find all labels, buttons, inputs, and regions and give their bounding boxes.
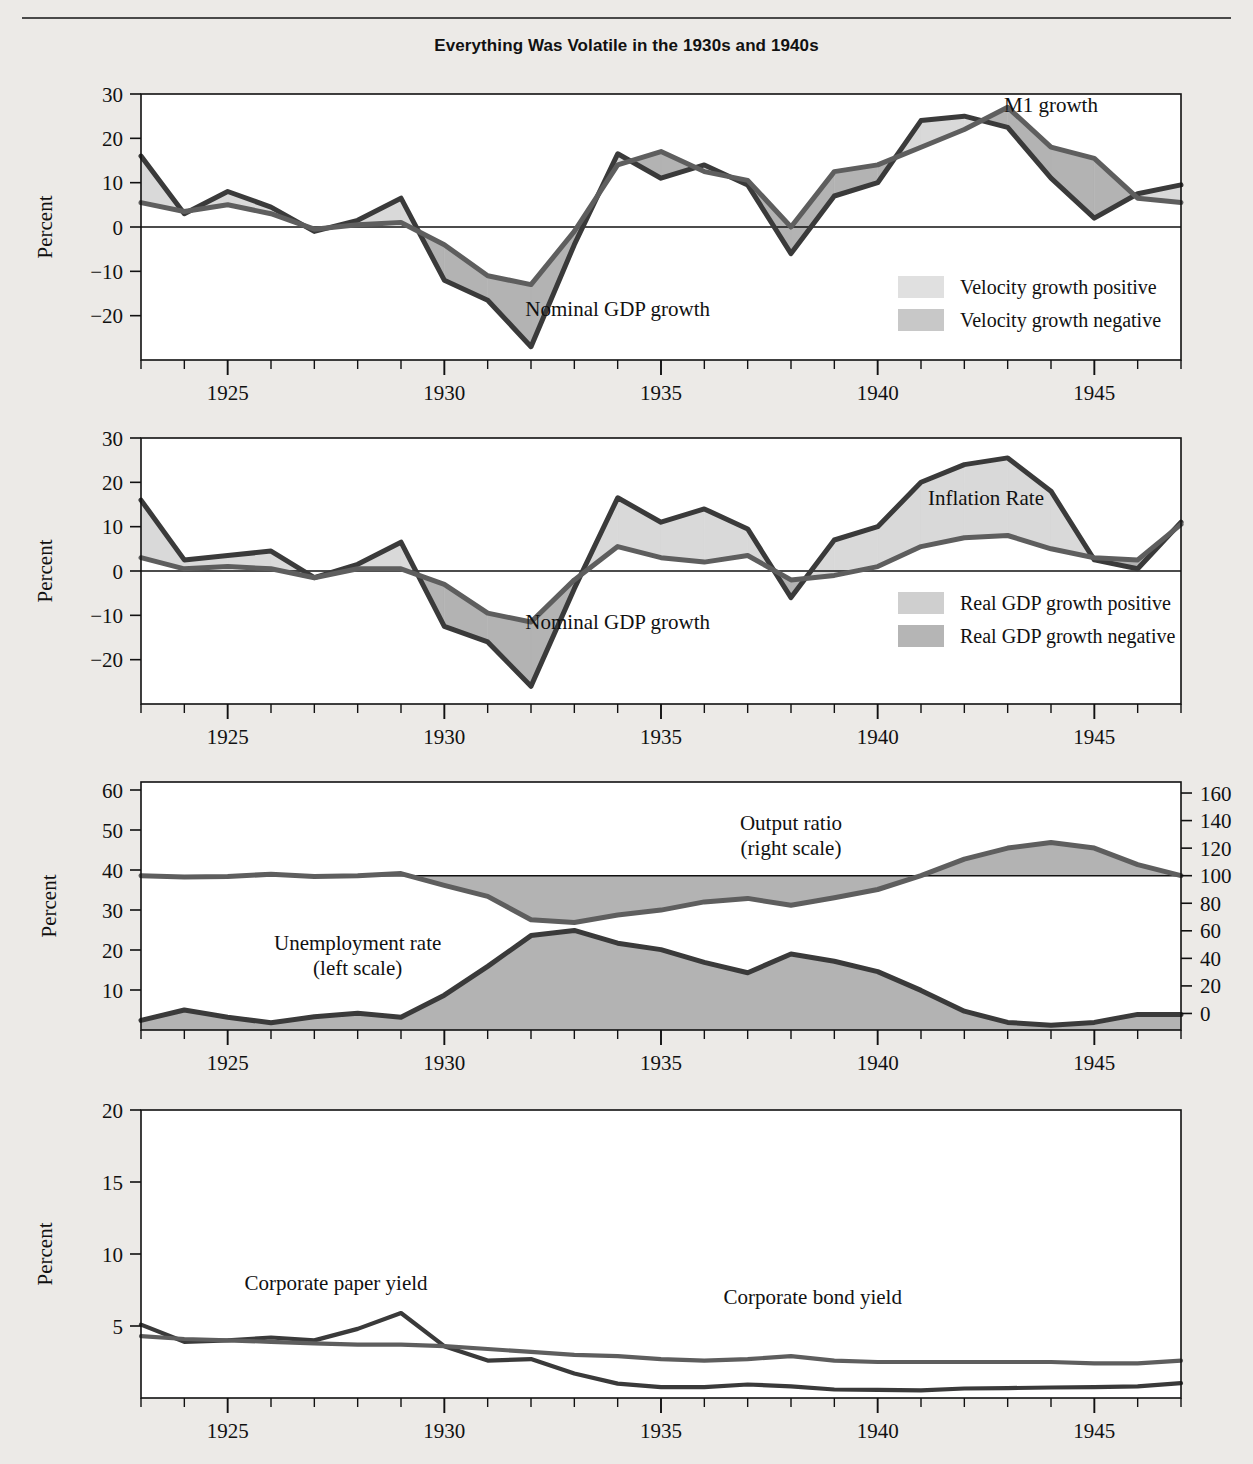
x-axis-tick-label: 1935	[640, 381, 682, 400]
x-axis-tick-label: 1935	[640, 1419, 682, 1443]
y-axis-right-tick-label: 100	[1200, 864, 1232, 888]
y-axis-right-tick-label: 0	[1200, 1002, 1211, 1026]
corporate-paper-yield-label: Corporate paper yield	[244, 1271, 428, 1295]
y-axis-tick-label: 30	[102, 83, 123, 107]
y-axis-right-tick-label: 160	[1200, 782, 1232, 806]
y-axis-title: Percent	[33, 1222, 57, 1285]
legend-real-gdp-negative-label: Real GDP growth negative	[960, 625, 1175, 648]
y-axis-tick-label: 40	[102, 859, 123, 883]
m1-growth-label: M1 growth	[1004, 93, 1098, 117]
y-axis-tick-label: 20	[102, 471, 123, 495]
y-axis-tick-label: 20	[102, 1099, 123, 1123]
legend-real-gdp-positive-label: Real GDP growth positive	[960, 592, 1171, 615]
legend-velocity-positive-swatch	[898, 276, 944, 298]
x-axis-tick-label: 1925	[207, 1051, 249, 1075]
x-axis-tick-label: 1925	[207, 381, 249, 400]
x-axis-tick-label: 1940	[857, 1419, 899, 1443]
y-axis-right-tick-label: 20	[1200, 974, 1221, 998]
y-axis-right-tick-label: 40	[1200, 947, 1221, 971]
x-axis-tick-label: 1935	[640, 725, 682, 744]
x-axis-tick-label: 1940	[857, 381, 899, 400]
y-axis-tick-label: 5	[113, 1315, 124, 1339]
y-axis-tick-label: 30	[102, 427, 123, 451]
y-axis-tick-label: 30	[102, 899, 123, 923]
y-axis-right-tick-label: 120	[1200, 837, 1232, 861]
legend-velocity-negative-swatch	[898, 309, 944, 331]
y-axis-tick-label: 10	[102, 979, 123, 1003]
y-axis-tick-label: 0	[113, 560, 124, 584]
y-axis-right-tick-label: 60	[1200, 919, 1221, 943]
x-axis-tick-label: 1930	[423, 1419, 465, 1443]
corporate-bond-yield-label: Corporate bond yield	[723, 1285, 902, 1309]
y-axis-tick-label: 50	[102, 819, 123, 843]
figure-title: Everything Was Volatile in the 1930s and…	[0, 36, 1253, 56]
inflation-rate-label: Inflation Rate	[928, 486, 1044, 510]
x-axis-tick-label: 1935	[640, 1051, 682, 1075]
y-axis-right-tick-label: 140	[1200, 809, 1232, 833]
legend-velocity-positive-label: Velocity growth positive	[960, 276, 1157, 299]
y-axis-tick-label: 0	[113, 216, 124, 240]
x-axis-tick-label: 1930	[423, 725, 465, 744]
panel-unemployment-output: 605040302010160140120100806040200Percent…	[0, 758, 1253, 1078]
output-ratio-label: Output ratio	[740, 811, 842, 835]
x-axis-tick-label: 1945	[1073, 381, 1115, 400]
x-axis-tick-label: 1930	[423, 1051, 465, 1075]
y-axis-tick-label: 20	[102, 939, 123, 963]
y-axis-tick-label: 15	[102, 1171, 123, 1195]
panel-money-growth: 3020100−10−20Percent19251930193519401945…	[0, 70, 1253, 400]
x-axis-tick-label: 1940	[857, 1051, 899, 1075]
legend-velocity-negative-label: Velocity growth negative	[960, 309, 1161, 332]
x-axis-tick-label: 1940	[857, 725, 899, 744]
y-axis-tick-label: 10	[102, 171, 123, 195]
unemployment-rate-label-sub: (left scale)	[313, 956, 402, 980]
y-axis-title: Percent	[33, 539, 57, 602]
y-axis-tick-label: −10	[90, 260, 123, 284]
x-axis-tick-label: 1930	[423, 381, 465, 400]
legend-real-gdp-negative-swatch	[898, 625, 944, 647]
x-axis-tick-label: 1925	[207, 1419, 249, 1443]
y-axis-tick-label: −10	[90, 604, 123, 628]
x-axis-tick-label: 1945	[1073, 1419, 1115, 1443]
panel-yields: 2015105Percent19251930193519401945Corpor…	[0, 1086, 1253, 1446]
unemployment-rate-label: Unemployment rate	[274, 931, 441, 955]
y-axis-tick-label: 10	[102, 1243, 123, 1267]
panel-inflation: 3020100−10−20Percent19251930193519401945…	[0, 414, 1253, 744]
nominal-gdp-growth-label: Nominal GDP growth	[525, 297, 710, 321]
y-axis-title: Percent	[33, 195, 57, 258]
x-axis-tick-label: 1945	[1073, 725, 1115, 744]
y-axis-right-tick-label: 80	[1200, 892, 1221, 916]
nominal-gdp-growth-label: Nominal GDP growth	[525, 610, 710, 634]
y-axis-tick-label: −20	[90, 304, 123, 328]
y-axis-title: Percent	[37, 874, 61, 937]
x-axis-tick-label: 1945	[1073, 1051, 1115, 1075]
x-axis-tick-label: 1925	[207, 725, 249, 744]
y-axis-tick-label: −20	[90, 648, 123, 672]
legend-real-gdp-positive-swatch	[898, 592, 944, 614]
top-divider-rule	[22, 17, 1231, 19]
output-ratio-label-sub: (right scale)	[741, 836, 842, 860]
y-axis-tick-label: 20	[102, 127, 123, 151]
y-axis-tick-label: 60	[102, 779, 123, 803]
plot-area	[141, 1110, 1181, 1398]
y-axis-tick-label: 10	[102, 515, 123, 539]
